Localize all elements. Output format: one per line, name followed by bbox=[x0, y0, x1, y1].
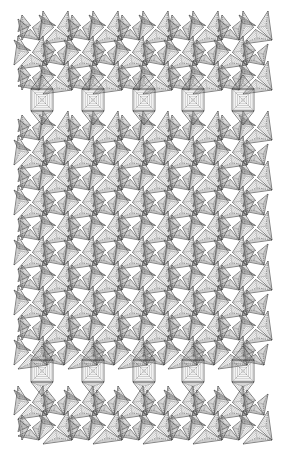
tiling-figure bbox=[0, 0, 284, 468]
tiling-svg bbox=[0, 0, 284, 468]
